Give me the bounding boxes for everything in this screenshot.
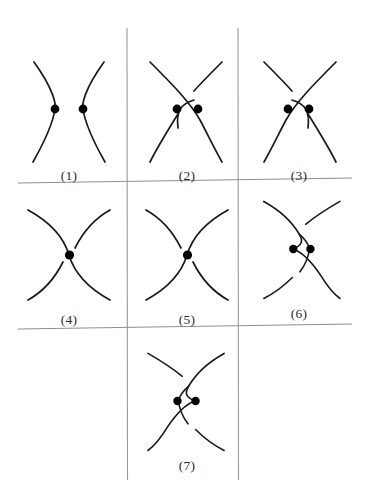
strand-nw-upper bbox=[264, 62, 292, 91]
marked-point bbox=[51, 105, 60, 114]
strand-se-lower bbox=[308, 114, 336, 162]
tangle-diagram-6 bbox=[244, 190, 354, 308]
marked-point bbox=[65, 250, 74, 259]
bigon-arc bbox=[178, 100, 194, 128]
figure-label-5: (5) bbox=[132, 312, 242, 328]
marked-point bbox=[289, 245, 297, 253]
vertical-rule-left bbox=[127, 28, 128, 480]
figure-plate: (1) (2) bbox=[0, 0, 369, 504]
marked-point bbox=[191, 397, 199, 405]
figure-cell-6: (6) bbox=[244, 190, 354, 340]
marked-point bbox=[79, 105, 88, 114]
figure-cell-4: (4) bbox=[14, 196, 124, 346]
figure-label-1: (1) bbox=[14, 168, 124, 184]
tangle-diagram-2 bbox=[132, 52, 242, 170]
strand-nw-upper bbox=[146, 210, 181, 248]
marked-point bbox=[305, 105, 314, 114]
strand-se-lower bbox=[196, 430, 225, 451]
bigon-arc bbox=[292, 100, 308, 128]
figure-cell-5: (5) bbox=[132, 196, 242, 346]
strand-sw-lower bbox=[150, 114, 178, 162]
strand-ne-upper bbox=[306, 201, 340, 224]
marked-point bbox=[173, 397, 181, 405]
strand-right-lower bbox=[148, 401, 195, 450]
figure-label-2: (2) bbox=[132, 168, 242, 184]
marked-point bbox=[183, 250, 192, 259]
figure-cell-7: (7) bbox=[132, 342, 242, 492]
marked-point bbox=[194, 105, 203, 114]
strand-nw-se bbox=[150, 62, 222, 162]
tangle-diagram-1 bbox=[14, 52, 124, 170]
tangle-diagram-4 bbox=[14, 196, 124, 314]
figure-cell-1: (1) bbox=[14, 52, 124, 202]
marked-point bbox=[284, 105, 293, 114]
tangle-diagram-7 bbox=[132, 342, 242, 460]
strand-right-through bbox=[186, 353, 224, 401]
strand-ne-upper bbox=[194, 62, 222, 91]
marked-point bbox=[173, 105, 182, 114]
tangle-diagram-3 bbox=[244, 52, 354, 170]
marked-point bbox=[306, 245, 314, 253]
figure-cell-2: (2) bbox=[132, 52, 242, 202]
strand-ne-upper bbox=[75, 210, 110, 248]
figure-cell-3: (3) bbox=[244, 52, 354, 202]
strand-left-lower bbox=[293, 249, 340, 298]
strand-ne-sw bbox=[264, 62, 336, 162]
strand-sw-lower bbox=[28, 262, 63, 300]
tangle-diagram-5 bbox=[132, 196, 242, 314]
figure-label-3: (3) bbox=[244, 168, 354, 184]
figure-label-4: (4) bbox=[14, 312, 124, 328]
figure-label-7: (7) bbox=[132, 458, 242, 474]
figure-label-6: (6) bbox=[244, 306, 354, 322]
strand-sw-lower bbox=[264, 278, 293, 299]
strand-nw-upper bbox=[148, 353, 182, 376]
strand-se-lower bbox=[193, 262, 228, 300]
strand-left-through bbox=[264, 201, 302, 249]
